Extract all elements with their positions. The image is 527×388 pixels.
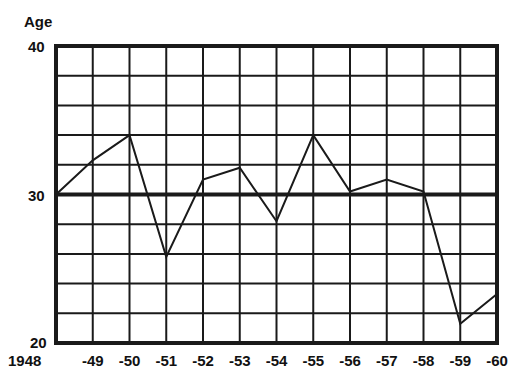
x-tick-label: -50 (119, 352, 141, 369)
x-tick-label: -55 (302, 352, 324, 369)
x-tick-label: -51 (155, 352, 177, 369)
y-axis-label: Age (24, 13, 52, 30)
x-tick-label: -54 (266, 352, 288, 369)
x-tick-label: -49 (82, 352, 104, 369)
x-tick-label: -53 (229, 352, 251, 369)
y-tick-30: 30 (28, 187, 45, 204)
y-tick-40: 40 (28, 38, 45, 55)
line-chart (0, 0, 527, 388)
x-tick-label: -59 (449, 352, 471, 369)
x-tick-label: 1948 (8, 352, 41, 369)
x-tick-label: -52 (192, 352, 214, 369)
x-tick-label: -58 (413, 352, 435, 369)
x-tick-label: -56 (339, 352, 361, 369)
x-tick-label: -57 (376, 352, 398, 369)
y-tick-20: 20 (30, 334, 47, 351)
x-tick-label: -60 (486, 352, 508, 369)
